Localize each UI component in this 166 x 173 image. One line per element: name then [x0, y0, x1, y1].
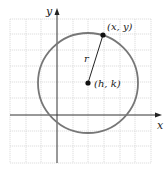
circle-point-label: (x, y): [107, 21, 133, 32]
circle-point: [100, 32, 105, 37]
x-axis-label: x: [157, 119, 164, 132]
center-point: [85, 80, 90, 85]
radius-label: r: [84, 53, 90, 64]
center-point-label: (h, k): [94, 78, 121, 89]
y-axis-arrow-icon: [55, 8, 60, 15]
radius-line: [88, 35, 103, 83]
y-axis-label: y: [45, 5, 53, 18]
x-axis-arrow-icon: [155, 113, 162, 118]
grid: [10, 19, 151, 163]
circle-diagram: x y r (h, k) (x, y): [0, 0, 166, 173]
